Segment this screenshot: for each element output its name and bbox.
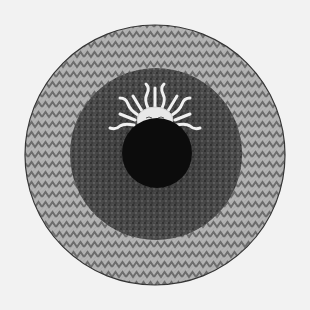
cosmic-diagram (0, 0, 310, 310)
engraving-canvas (0, 0, 310, 310)
black-core (122, 118, 192, 188)
